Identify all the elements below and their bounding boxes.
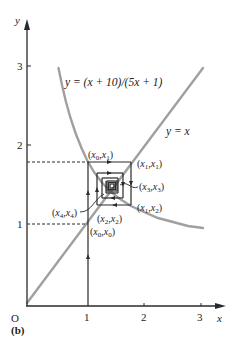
origin-label: O <box>11 312 19 324</box>
x-axis-arrow-icon <box>215 303 226 309</box>
curve-equation-label: y = (x + 10)/(5x + 1) <box>64 76 163 89</box>
x-axis-label: x <box>216 312 222 324</box>
identity-line-label: y = x <box>165 125 191 138</box>
cobweb-arrows <box>86 160 133 259</box>
point-label-x4-x4: (x4,x4) <box>52 207 77 220</box>
y-axis-arrow-icon <box>24 19 30 30</box>
svg-text:(x0,x0): (x0,x0) <box>90 226 115 239</box>
svg-text:(x2,x2): (x2,x2) <box>97 213 122 226</box>
cobweb-diagram: y x O 1 2 3 3 2 1 (b) y = (x + 10)/(5x +… <box>0 0 234 354</box>
svg-text:(x1,x2): (x1,x2) <box>137 202 162 215</box>
point-label-x3-x3: (x3,x3) <box>139 181 164 194</box>
svg-text:(x4,x4): (x4,x4) <box>52 207 77 220</box>
y-axis-label: y <box>14 14 20 26</box>
svg-text:(x3,x3): (x3,x3) <box>139 181 164 194</box>
x-tick-label-3: 3 <box>197 311 203 323</box>
panel-label: (b) <box>11 324 25 337</box>
point-label-x1-x1: (x1,x1) <box>137 158 162 171</box>
point-label-x1-x2: (x1,x2) <box>137 202 162 215</box>
point-label-x0-x1: (x0,x1) <box>88 149 113 162</box>
svg-text:(x1,x1): (x1,x1) <box>137 158 162 171</box>
x-tick-label-1: 1 <box>84 311 90 323</box>
svg-text:(x0,x1): (x0,x1) <box>88 149 113 162</box>
y-tick-label-1: 1 <box>17 218 23 230</box>
x-tick-label-2: 2 <box>141 311 147 323</box>
point-label-x0-x0: (x0,x0) <box>90 226 115 239</box>
point-label-x2-x2: (x2,x2) <box>97 213 122 226</box>
y-tick-label-3: 3 <box>17 60 23 72</box>
y-tick-label-2: 2 <box>17 139 23 151</box>
